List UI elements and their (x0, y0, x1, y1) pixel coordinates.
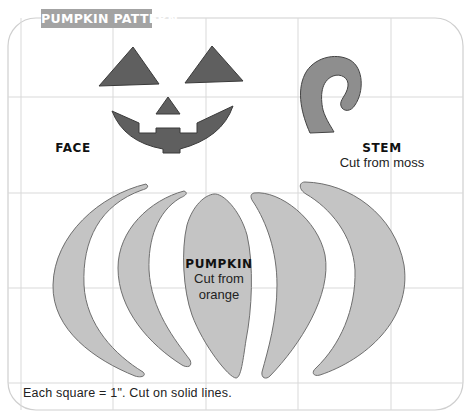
stem-shape (301, 56, 362, 133)
stem-instruction: Cut from moss (332, 155, 432, 171)
nose-shape (156, 97, 180, 114)
pumpkin-label: PUMPKIN Cut from orange (184, 257, 254, 303)
scale-note: Each square = 1". Cut on solid lines. (23, 386, 232, 400)
right-eye-shape (185, 46, 243, 83)
pumpkin-instruction-line1: Cut from (184, 271, 254, 287)
stem-label: STEM Cut from moss (332, 141, 432, 171)
pattern-canvas (0, 0, 472, 417)
left-eye-shape (99, 47, 159, 86)
title-banner: PUMPKIN PATTERN (41, 9, 152, 28)
face-label: FACE (48, 141, 98, 155)
stem-label-heading: STEM (332, 141, 432, 155)
pumpkin-piece-2 (118, 191, 191, 367)
face-pattern (99, 46, 243, 153)
pumpkin-instruction-line2: orange (184, 287, 254, 303)
pumpkin-label-heading: PUMPKIN (184, 257, 254, 271)
face-label-heading: FACE (48, 141, 98, 155)
pumpkin-piece-4 (251, 193, 326, 378)
